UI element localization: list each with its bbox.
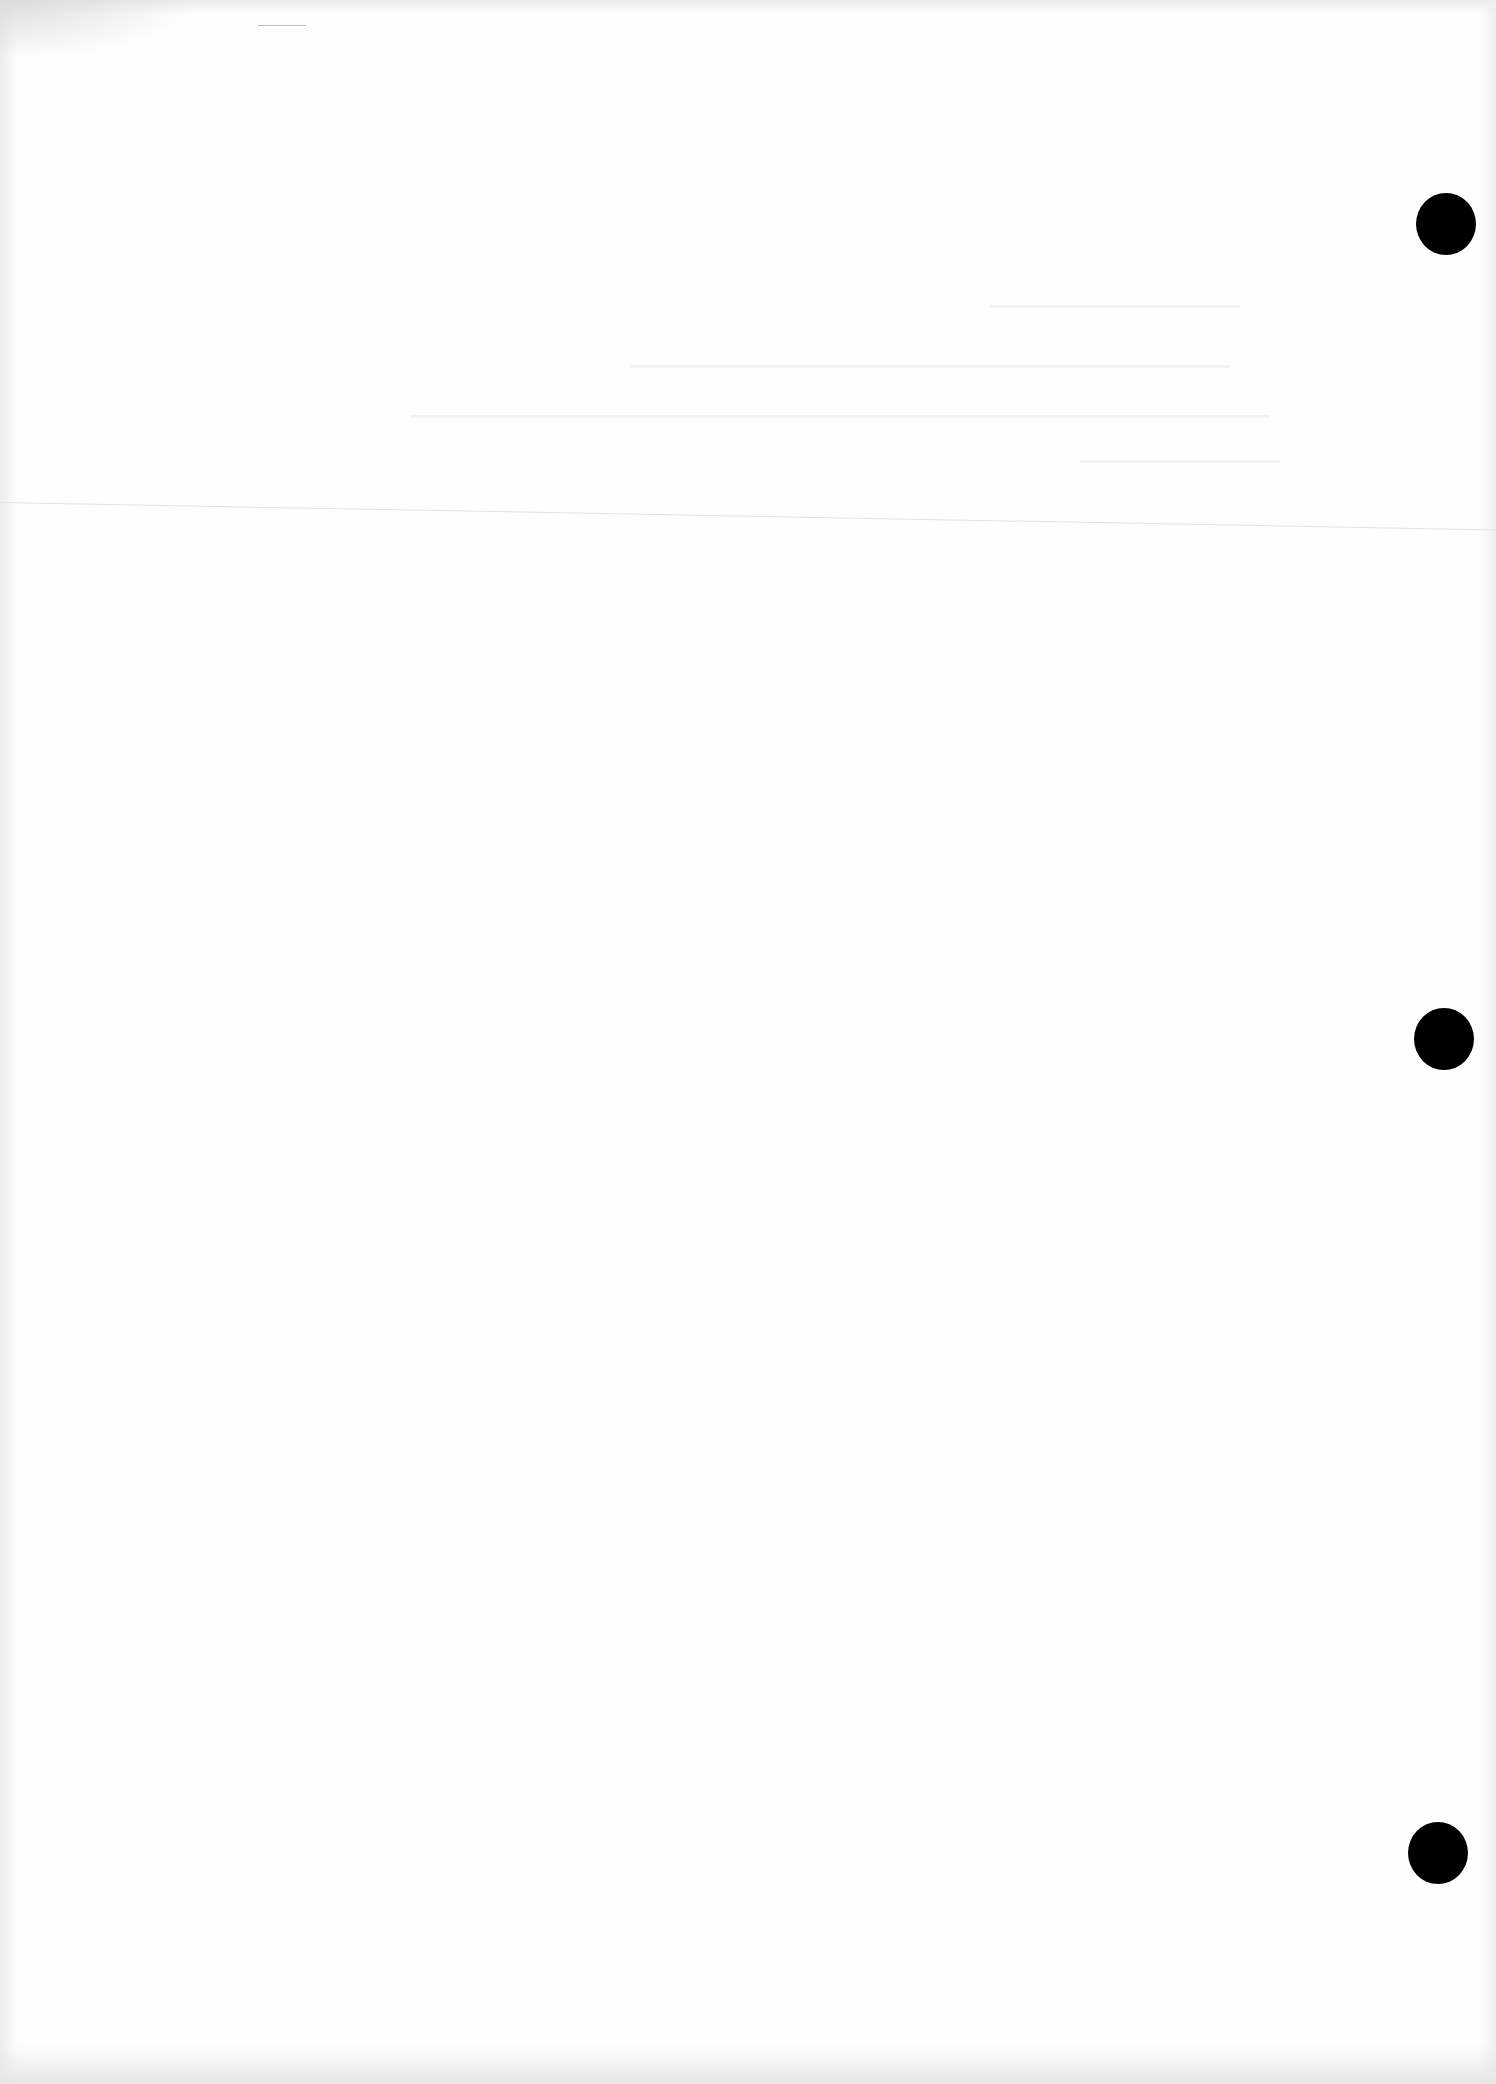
punch-hole-bottom [1408,1822,1468,1884]
fold-line [0,502,1496,530]
scan-edge-left [0,0,18,2084]
scan-corner-shadow [0,0,200,60]
punch-hole-middle [1414,1008,1474,1070]
punch-hole-top [1416,193,1476,255]
scan-edge-right [1480,0,1496,2084]
scan-edge-bottom [0,2044,1496,2084]
bleed-through-mark [990,305,1240,308]
scanned-page [0,0,1496,2084]
scan-edge-top [0,0,1496,14]
bleed-through-mark [410,415,1270,418]
bleed-through-mark [1080,460,1280,463]
stray-mark [258,25,306,26]
bleed-through-mark [630,365,1230,368]
